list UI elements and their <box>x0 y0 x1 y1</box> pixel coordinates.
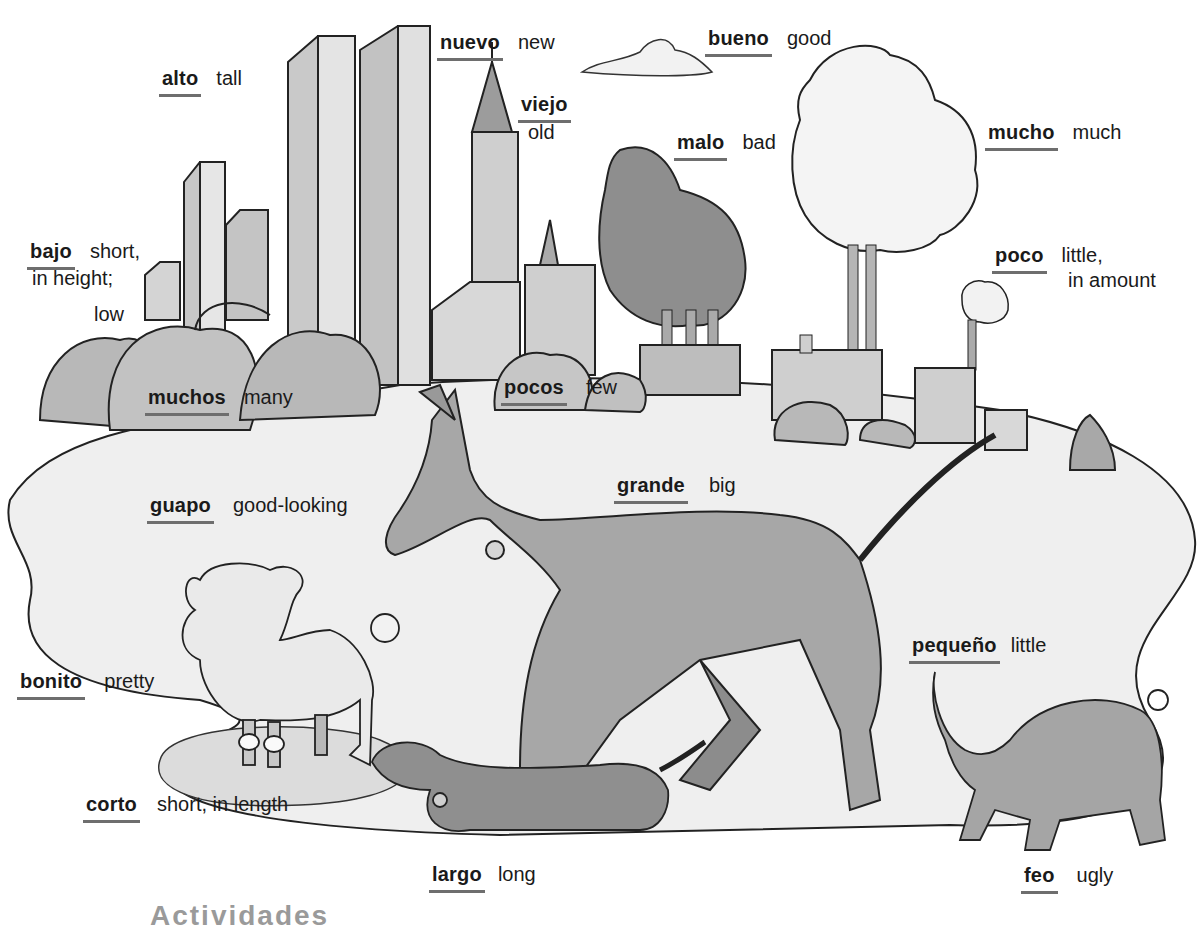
vocab-pocos: pocosfew <box>504 375 617 399</box>
english-gloss: big <box>709 474 736 496</box>
dark-smoke-tree <box>599 147 745 395</box>
spanish-word: guapo <box>150 493 211 517</box>
vocab-feo: feougly <box>1024 863 1113 887</box>
vocab-nuevo: nuevonew <box>440 30 555 54</box>
spanish-word: viejo <box>521 92 568 116</box>
english-gloss: tall <box>216 67 242 89</box>
spanish-word: mucho <box>988 120 1055 144</box>
spanish-word: largo <box>432 862 482 886</box>
section-heading-activities: Actividades <box>150 900 329 929</box>
vocab-malo: malobad <box>677 130 776 154</box>
vocab-muchos: muchosmany <box>148 385 293 409</box>
english-gloss: new <box>518 31 555 53</box>
white-smoke-cloud <box>772 46 977 420</box>
vocab-grande: grandebig <box>617 473 736 497</box>
english-gloss: short, <box>90 240 140 262</box>
spanish-word: grande <box>617 473 685 497</box>
english-gloss: pretty <box>104 670 154 692</box>
vocab-pequeno: pequeñolittle <box>912 633 1046 657</box>
vocab-viejo: viejo <box>521 92 586 116</box>
english-gloss: little <box>1011 634 1047 656</box>
spanish-word: feo <box>1024 863 1055 887</box>
spanish-word: pocos <box>504 375 564 399</box>
english-gloss: little, <box>1062 244 1103 266</box>
english-gloss: bad <box>742 131 775 153</box>
english-gloss-bajo-line2: in height; <box>32 266 113 290</box>
english-gloss: long <box>498 863 536 885</box>
english-gloss-poco-line2: in amount <box>1068 268 1156 292</box>
vocab-bajo: bajoshort, <box>30 239 140 263</box>
spanish-word: bajo <box>30 239 72 263</box>
spanish-word: bonito <box>20 669 82 693</box>
english-gloss: ugly <box>1077 864 1114 886</box>
spanish-word: muchos <box>148 385 226 409</box>
english-gloss-bajo-line3: low <box>94 302 124 326</box>
vocab-bueno: buenogood <box>708 26 832 50</box>
vocab-poco: pocolittle, <box>995 243 1103 267</box>
english-gloss: good <box>787 27 832 49</box>
vocab-alto: altotall <box>162 66 242 90</box>
vocab-bonito: bonitopretty <box>20 669 154 693</box>
spanish-word: nuevo <box>440 30 500 54</box>
vocab-corto: cortoshort, in length <box>86 792 288 816</box>
english-gloss: much <box>1073 121 1122 143</box>
spanish-word: bueno <box>708 26 769 50</box>
spanish-word: corto <box>86 792 137 816</box>
spanish-word: malo <box>677 130 724 154</box>
english-gloss-viejo: old <box>528 120 555 144</box>
spanish-word: poco <box>995 243 1044 267</box>
spanish-word: pequeño <box>912 633 997 657</box>
english-gloss: good-looking <box>233 494 348 516</box>
small-smoke-factory <box>915 281 1027 450</box>
spanish-word: alto <box>162 66 198 90</box>
english-gloss: short, in length <box>157 793 288 815</box>
vocab-mucho: muchomuch <box>988 120 1121 144</box>
vocab-guapo: guapogood-looking <box>150 493 348 517</box>
vocab-largo: largolong <box>432 862 536 886</box>
english-gloss: many <box>244 386 293 408</box>
english-gloss: few <box>586 376 617 398</box>
cloud <box>582 40 712 76</box>
